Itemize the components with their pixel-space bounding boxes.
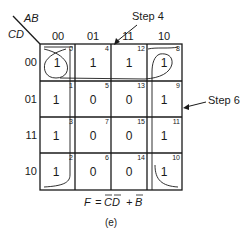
cell-index: 12 <box>137 45 145 52</box>
karnaugh-map-diagram: AB CD 00 01 11 10 00 01 11 10 0 4 12 8 1… <box>0 0 252 238</box>
cell-value: 0 <box>90 165 97 179</box>
row-header-11: 11 <box>26 129 37 141</box>
cell-index: 9 <box>176 82 180 89</box>
figure-caption: (e) <box>105 217 117 228</box>
row-variable-label: CD <box>8 28 24 40</box>
loop-top-right-arc <box>148 47 178 49</box>
cell-index: 13 <box>137 82 145 89</box>
row-header-10: 10 <box>25 165 37 177</box>
cell-value: 0 <box>90 93 97 107</box>
cell-value: 1 <box>53 93 60 107</box>
col-variable-label: AB <box>23 12 39 24</box>
cell-value: 0 <box>90 129 97 143</box>
step6-arrowhead-icon <box>183 104 189 110</box>
cell-value: 1 <box>161 93 168 107</box>
cell-value: 0 <box>126 93 133 107</box>
formula-lhs: F <box>84 196 92 208</box>
cell-value: 1 <box>90 56 97 70</box>
col-header-01: 01 <box>87 30 99 42</box>
cell-index: 5 <box>105 82 109 89</box>
cell-value: 0 <box>126 129 133 143</box>
row-header-01: 01 <box>25 93 37 105</box>
cell-index: 8 <box>176 45 180 52</box>
cell-value: 0 <box>126 165 133 179</box>
formula: F = CD + B <box>84 195 143 208</box>
step6-label: Step 6 <box>208 94 240 106</box>
cell-index: 15 <box>137 118 145 125</box>
column-headers: 00 01 11 10 <box>52 30 170 42</box>
col-header-10: 10 <box>158 30 170 42</box>
cell-value: 1 <box>53 129 60 143</box>
cell-index: 6 <box>105 154 109 161</box>
cell-value: 1 <box>126 56 133 70</box>
cell-index: 10 <box>172 154 180 161</box>
cell-value: 1 <box>53 165 60 179</box>
cell-value: 1 <box>161 56 168 70</box>
formula-equals: = <box>95 196 102 208</box>
row-header-00: 00 <box>25 56 37 68</box>
formula-term1: CD <box>104 196 120 208</box>
col-header-00: 00 <box>52 30 64 42</box>
cell-value: 1 <box>54 56 61 70</box>
formula-plus: + <box>126 196 133 208</box>
cell-index: 4 <box>105 45 109 52</box>
cell-index: 14 <box>137 154 145 161</box>
cell-value: 1 <box>161 129 168 143</box>
cell-index: 7 <box>105 118 109 125</box>
step4-label: Step 4 <box>132 10 164 22</box>
step6-annotation: Step 6 <box>183 94 240 110</box>
row-headers: 00 01 11 10 <box>25 56 37 177</box>
formula-term2: B <box>135 196 142 208</box>
cell-value: 1 <box>161 165 168 179</box>
cell-index: 11 <box>173 118 180 125</box>
